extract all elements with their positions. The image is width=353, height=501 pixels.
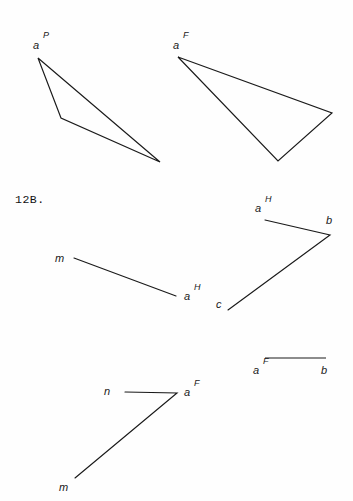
label-top-left-vertex-a: a bbox=[33, 40, 39, 51]
label-top-right-vertex-superscript-f: F bbox=[183, 31, 189, 40]
label-bottom-right-point-a: a bbox=[253, 365, 259, 376]
label-bottom-right-point-b: b bbox=[321, 365, 327, 376]
label-bottom-left-point-a: a bbox=[184, 387, 190, 398]
label-mid-left-point-superscript-h: H bbox=[194, 283, 201, 292]
label-bottom-right-point-superscript-f: F bbox=[263, 357, 269, 366]
label-top-left-vertex-superscript-p: P bbox=[43, 31, 49, 40]
label-mid-right-point-superscript-h: H bbox=[265, 195, 272, 204]
label-bottom-left-point-superscript-f: F bbox=[194, 379, 200, 388]
top-right-triangle-shape bbox=[178, 57, 332, 161]
label-bottom-left-point-n: n bbox=[104, 386, 110, 397]
label-top-right-vertex-a: a bbox=[173, 40, 179, 51]
label-mid-left-point-m: m bbox=[55, 253, 64, 264]
label-bottom-left-point-m: m bbox=[59, 482, 68, 493]
label-mid-right-point-c: c bbox=[216, 299, 222, 310]
technical-drawing-canvas bbox=[0, 0, 353, 501]
exercise-number-label: 12B. bbox=[15, 194, 45, 206]
label-mid-right-point-a: a bbox=[255, 203, 261, 214]
top-left-triangle-shape bbox=[38, 58, 160, 162]
mid-left-segment-line bbox=[74, 258, 176, 296]
bottom-left-polyline-line bbox=[75, 392, 177, 478]
label-mid-left-point-a: a bbox=[184, 291, 190, 302]
mid-right-polyline-line bbox=[228, 220, 330, 310]
label-mid-right-point-b: b bbox=[326, 215, 332, 226]
